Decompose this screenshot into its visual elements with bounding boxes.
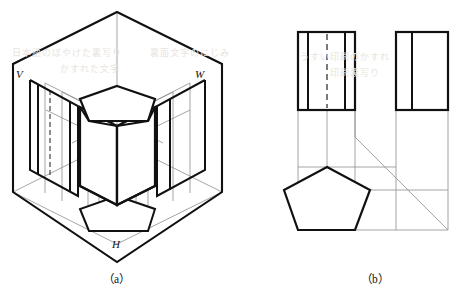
figure-a-w-projection xyxy=(157,80,205,196)
caption-b: （b） xyxy=(361,270,389,286)
figure-a-drawing xyxy=(0,0,240,299)
figure-page: 日本語のぼやけた裏写り 裏面文字のにじみ うすい印刷のかすれ 印刷裏写り かすれ… xyxy=(0,0,467,299)
plane-label-h: H xyxy=(112,238,120,250)
figure-b-front-view xyxy=(298,32,355,110)
figure-a-v-projection xyxy=(30,80,78,196)
figure-b-top-view xyxy=(284,167,370,230)
plane-label-v: V xyxy=(16,68,23,80)
plane-label-w: W xyxy=(195,68,204,80)
figure-b-side-view xyxy=(396,32,448,110)
figure-a-pentagonal-prism xyxy=(80,86,155,205)
caption-a: （a） xyxy=(103,270,130,286)
figure-b-drawing xyxy=(240,0,467,299)
